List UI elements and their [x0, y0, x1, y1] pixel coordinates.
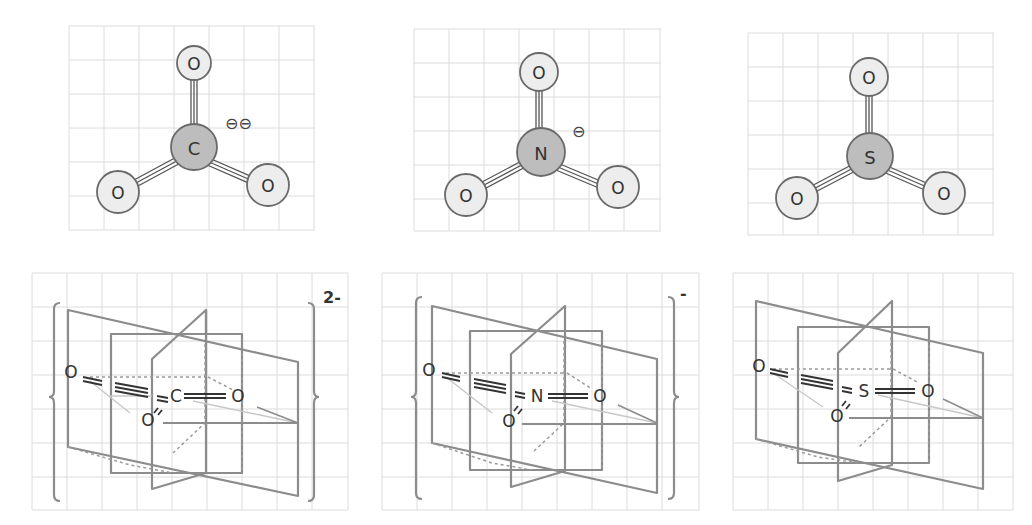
atom-label: O: [862, 68, 875, 88]
atom-label: O: [532, 63, 545, 83]
panel-sulfur-trioxide-3d: O S O O: [733, 273, 1014, 511]
bond-line: [618, 405, 657, 423]
atom-label: O: [261, 176, 274, 196]
panel-nitrate-ballstick: O O O N ⊖: [414, 29, 662, 232]
atom-label: O: [459, 186, 472, 206]
plane-diagram: O C O O 2-: [32, 273, 349, 511]
panel-carbonate-ballstick: O O O C ⊖⊖: [69, 26, 315, 231]
central-atom-label: C: [170, 386, 182, 406]
plane-diagram: O N O O -: [382, 273, 700, 511]
atom-label: O: [111, 183, 124, 203]
atom-label: O: [611, 178, 624, 198]
oxygen-label-right: O: [231, 386, 244, 406]
oxygen-label-left: O: [64, 362, 77, 382]
central-atom-label: C: [188, 138, 201, 159]
charge-symbol: ⊖⊖: [225, 114, 252, 133]
charge-label: 2-: [323, 288, 341, 307]
oxygen-label-left: O: [752, 356, 765, 376]
oxygen-label-front: O: [830, 406, 843, 426]
atom-label: O: [187, 54, 200, 74]
ballstick-diagram: O O O N ⊖: [414, 29, 662, 232]
charge-symbol: ⊖: [572, 122, 585, 141]
oxygen-label-right: O: [921, 381, 934, 401]
plane-diagram: O S O O: [733, 273, 1014, 511]
panel-nitrate-3d: O N O O -: [382, 273, 700, 511]
panel-carbonate-3d: O C O O 2-: [32, 273, 349, 511]
plane-back: [756, 301, 983, 489]
oxygen-label-right: O: [593, 386, 606, 406]
right-bracket: [668, 297, 679, 499]
atom-label: O: [790, 189, 803, 209]
oxygen-label-front: O: [141, 410, 154, 430]
plane-back: [432, 306, 657, 493]
atom-label: O: [937, 184, 950, 204]
panel-sulfur-trioxide-ballstick: O O O S: [748, 33, 995, 236]
central-atom-label: N: [531, 386, 544, 406]
grid: [733, 273, 1013, 510]
oxygen-label-left: O: [422, 360, 435, 380]
central-atom-label: S: [859, 381, 870, 401]
right-bracket: [308, 303, 319, 501]
oxygen-label-front: O: [502, 411, 515, 431]
bond-line: [193, 401, 298, 423]
grid: [32, 273, 348, 510]
ballstick-diagram: O O O C ⊖⊖: [69, 26, 315, 231]
left-bracket: [49, 303, 60, 501]
central-atom-label: N: [534, 143, 547, 164]
ballstick-diagram: O O O S: [748, 33, 995, 236]
charge-label: -: [680, 284, 687, 303]
central-atom-label: S: [864, 147, 875, 168]
